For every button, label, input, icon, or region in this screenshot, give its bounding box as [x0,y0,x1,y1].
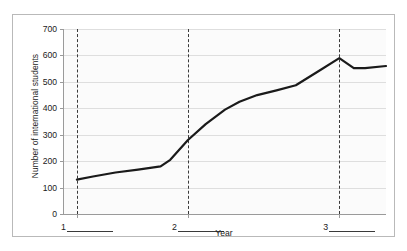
chart-figure-frame: Number of international students 0100200… [12,14,395,237]
y-tick-label: 700 [43,24,57,34]
x-tick-mark [339,214,340,218]
y-tick-label: 200 [43,156,57,166]
y-tick-mark [60,214,64,215]
x-tick-mark [77,214,78,218]
series-line [77,58,386,180]
plot-area: 0100200300400500600700 123 [63,29,386,215]
y-tick-label: 600 [43,50,57,60]
y-tick-label: 300 [43,130,57,140]
y-tick-label: 0 [52,209,57,219]
y-tick-label: 400 [43,103,57,113]
y-tick-label: 500 [43,77,57,87]
x-axis-title: Year [63,228,385,238]
y-tick-label: 100 [43,183,57,193]
series-line-layer [64,29,386,214]
y-axis-title: Number of international students [28,21,42,211]
x-tick-mark [188,214,189,218]
